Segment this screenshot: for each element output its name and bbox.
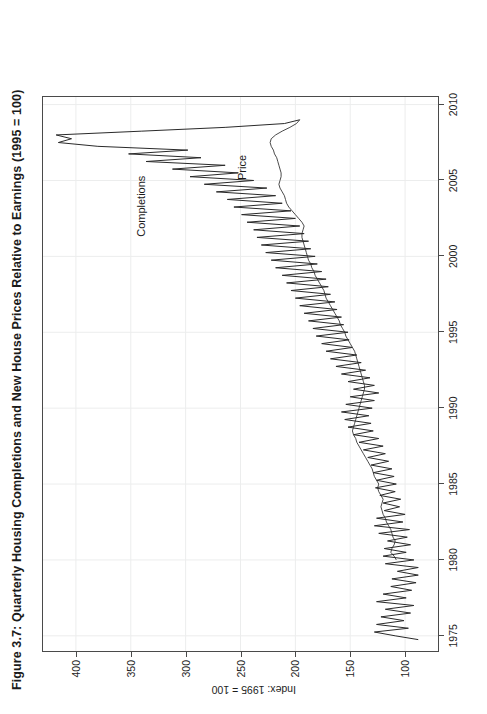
y-tick-mark — [241, 652, 242, 657]
y-tick-mark — [76, 652, 77, 657]
x-tick-mark — [439, 407, 444, 408]
x-tick-mark — [439, 559, 444, 560]
y-tick-mark — [295, 652, 296, 657]
x-tick-label: 1985 — [447, 472, 459, 495]
y-tick-mark — [350, 652, 351, 657]
x-tick-mark — [439, 483, 444, 484]
series-group — [56, 120, 418, 640]
x-tick-mark — [439, 104, 444, 105]
y-tick-label: 100 — [399, 660, 411, 692]
x-tick-label: 1975 — [447, 624, 459, 647]
y-tick-mark — [405, 652, 406, 657]
y-tick-mark — [186, 652, 187, 657]
y-tick-label: 400 — [70, 660, 82, 692]
figure-rotator: Figure 3.7: Quarterly Housing Completion… — [0, 0, 487, 714]
x-tick-label: 1995 — [447, 321, 459, 344]
figure-container: Figure 3.7: Quarterly Housing Completion… — [0, 0, 487, 714]
x-tick-label: 1990 — [447, 396, 459, 419]
series-line-price — [270, 120, 396, 560]
x-tick-mark — [439, 179, 444, 180]
series-label-completions: Completions — [135, 176, 147, 237]
x-tick-label: 2010 — [447, 93, 459, 116]
x-tick-label: 2000 — [447, 245, 459, 268]
y-axis-title: Index: 1995 = 100 — [211, 684, 295, 696]
x-tick-mark — [439, 635, 444, 636]
y-tick-mark — [131, 652, 132, 657]
plot-svg — [43, 97, 438, 651]
y-tick-label: 350 — [125, 660, 137, 692]
chart-title: Figure 3.7: Quarterly Housing Completion… — [10, 90, 24, 690]
y-tick-label: 150 — [344, 660, 356, 692]
x-tick-mark — [439, 255, 444, 256]
y-tick-label: 300 — [180, 660, 192, 692]
x-tick-label: 1980 — [447, 548, 459, 571]
x-tick-label: 2005 — [447, 169, 459, 192]
x-tick-mark — [439, 331, 444, 332]
series-line-completions — [56, 120, 418, 640]
series-label-price: Price — [236, 155, 248, 180]
